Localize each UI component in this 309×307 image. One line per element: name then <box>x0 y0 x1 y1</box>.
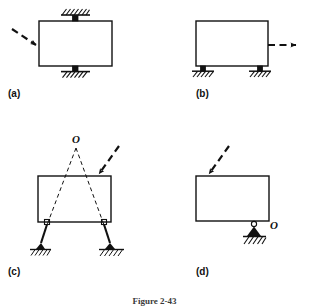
panel-b-rigid-body <box>196 21 268 66</box>
panel-a-rigid-body <box>39 21 112 66</box>
panel-c-group: O <box>30 133 124 256</box>
figure-caption: Figure 2-43 <box>0 296 309 306</box>
panel-c-right-link-support <box>99 220 124 257</box>
panel-a-top-pin-support <box>61 9 90 21</box>
panel-a-group <box>12 9 112 78</box>
panel-label-a: (a) <box>8 88 20 99</box>
figure-drawing: O <box>0 0 309 307</box>
panel-b-left-pin-support <box>192 66 214 77</box>
panel-d-pin-support: O <box>243 219 278 244</box>
panel-label-b: (b) <box>196 88 209 99</box>
panel-c-applied-force-arrow <box>99 146 119 174</box>
panel-c-point-label-o: O <box>72 133 80 145</box>
panel-a-bottom-pin-support <box>61 66 90 78</box>
panel-d-group: O <box>196 146 278 244</box>
panel-d-point-label-o: O <box>270 219 278 231</box>
figure-container: O <box>0 0 309 307</box>
panel-d-rigid-body <box>196 176 269 221</box>
panel-a-applied-force-arrow <box>12 29 36 45</box>
panel-label-d: (d) <box>196 266 209 277</box>
panel-b-right-pin-support <box>249 66 271 77</box>
panel-d-applied-force-arrow <box>209 146 229 174</box>
panel-c-left-link-support <box>30 220 51 256</box>
panel-b-group <box>192 21 296 77</box>
panel-label-c: (c) <box>8 266 20 277</box>
